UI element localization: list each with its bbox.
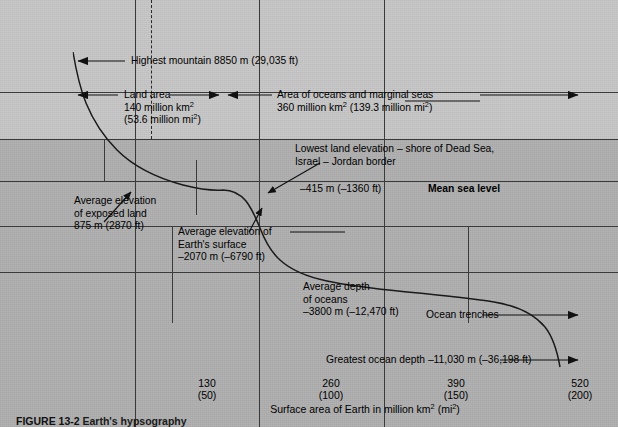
figure-caption-label: FIGURE 13-2 [16,415,80,427]
ocean-area-line2a: 360 million km [277,102,343,113]
ocean-area-line2b: (139.3 million mi [347,102,425,113]
x-tick-130: 130 (50) [172,377,242,401]
x-axis-label-part3: ) [456,403,460,415]
avg-surface-line1: Average elevation of [178,226,272,239]
x-tick-260-alt: (100) [296,389,366,401]
annotation-lowest-land: Lowest land elevation – shore of Dead Se… [295,143,494,168]
ocean-area-line1: Area of oceans and marginal seas [277,89,433,102]
figure-caption-text: Earth's hypsography [83,415,187,427]
annotation-lowest-land-value: –415 m (–1360 ft) [300,183,381,196]
x-tick-520: 520 (200) [545,377,615,401]
gridline-neg9150 [0,272,511,273]
ocean-area-line2: 360 million km2 (139.3 million mi2) [277,102,433,115]
x-axis-label-part1: Surface area of Earth in million km [270,403,430,415]
annotation-land-area: Land area 140 million km2 (53.6 million … [124,89,201,127]
annotation-highest-mountain: Highest mountain 8850 m (29,035 ft) [131,55,298,68]
annotation-greatest-depth: Greatest ocean depth –11,030 m (–36,198 … [326,354,531,367]
x-tick-130-alt: (50) [172,389,242,401]
avg-land-line3: 875 m (2870 ft) [74,220,156,233]
x-tick-260: 260 (100) [296,377,366,401]
leader-stub-avg-surface [196,160,197,215]
x-tick-390: 390 (150) [421,377,491,401]
gridline-3050 [0,92,511,93]
x-tick-520-alt: (200) [545,389,615,401]
annotation-ocean-area: Area of oceans and marginal seas 360 mil… [277,89,433,114]
leader-stub-avg-depth [172,226,173,323]
leader-stub-avg-land [104,139,105,181]
avg-surface-line3: –2070 m (–6790 ft) [178,251,272,264]
ocean-area-line2c: ) [429,102,432,113]
avg-depth-line2: of oceans [303,294,399,307]
annotation-avg-earth-surface: Average elevation of Earth's surface –20… [178,226,272,264]
land-area-line3b: ) [197,114,200,125]
x-tick-390-value: 390 [421,377,491,389]
figure-caption: FIGURE 13-2 Earth's hypsography [16,415,187,427]
hypsographic-curve-figure: Total area of Earth's surface 500 millio… [0,0,618,427]
avg-depth-line1: Average depth [303,281,399,294]
avg-land-line1: Average elevation [74,195,156,208]
gridline-x130 [135,0,136,323]
land-area-line3: (53.6 million mi2) [124,114,201,127]
avg-land-line2: of exposed land [74,208,156,221]
annotation-avg-ocean-depth: Average depth of oceans –3800 m (–12,470… [303,281,399,319]
x-axis-label-part2: (mi [435,403,453,415]
x-tick-390-alt: (150) [421,389,491,401]
gridline-neg3050 [0,181,511,182]
annotation-avg-land-elevation: Average elevation of exposed land 875 m … [74,195,156,233]
land-area-line2sup: 2 [190,99,194,108]
x-tick-520-value: 520 [545,377,615,389]
lowest-land-line1: Lowest land elevation – shore of Dead Se… [295,143,494,156]
x-axis-label: Surface area of Earth in million km2 (mi… [200,403,530,415]
land-area-line2: 140 million km2 [124,102,201,115]
x-tick-260-value: 260 [296,377,366,389]
gridline-sealevel [0,139,511,140]
avg-surface-line2: Earth's surface [178,239,272,252]
land-area-line2a: 140 million km [124,102,190,113]
annotation-mean-sea-level: Mean sea level [428,183,500,196]
avg-depth-line3: –3800 m (–12,470 ft) [303,306,399,319]
annotation-ocean-trenches: Ocean trenches [426,309,499,322]
lowest-land-line2: Israel – Jordan border [295,156,494,169]
land-area-line3a: (53.6 million mi [124,114,193,125]
land-shading-band [0,0,511,139]
x-tick-130-value: 130 [172,377,242,389]
